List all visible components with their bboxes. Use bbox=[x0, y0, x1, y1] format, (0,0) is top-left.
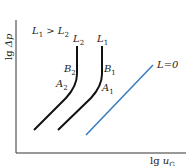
label-l1: L1 bbox=[97, 34, 108, 47]
label-a2: A2 bbox=[56, 79, 68, 92]
label-l-zero: L=0 bbox=[157, 60, 178, 70]
label-l2: L2 bbox=[73, 34, 84, 47]
label-b2: B2 bbox=[64, 64, 76, 77]
diagram-canvas bbox=[0, 0, 194, 166]
x-axis-label: lg uG bbox=[150, 156, 175, 166]
label-a1: A1 bbox=[102, 83, 114, 96]
condition-label: L1 > L2 bbox=[32, 26, 69, 39]
y-axis-label: lg Δp bbox=[3, 34, 14, 60]
curve-l-zero bbox=[86, 65, 153, 135]
label-b1: B1 bbox=[104, 64, 116, 77]
